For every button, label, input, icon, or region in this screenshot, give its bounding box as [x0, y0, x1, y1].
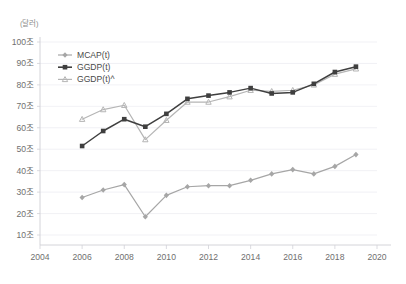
legend-label: GGDP(t): [77, 62, 111, 72]
x-axis-tick-label: 2012: [199, 252, 218, 262]
y-axis-tick-label: 60조: [16, 123, 34, 133]
legend-label: MCAP(t): [77, 50, 110, 60]
x-axis-tick-label: 2016: [283, 252, 302, 262]
y-axis-tick-label: 90조: [16, 58, 34, 68]
chart-legend: MCAP(t)GGDP(t)GGDP(t)^: [58, 50, 114, 84]
legend-item-ggdpt[interactable]: GGDP(t)^: [58, 74, 114, 84]
y-axis-tick-label: 50조: [16, 144, 34, 154]
x-axis-tick-label: 2018: [325, 252, 344, 262]
legend-label: GGDP(t)^: [77, 74, 114, 84]
x-axis-tick-label: 2010: [157, 252, 176, 262]
x-axis-tick-label: 2014: [241, 252, 260, 262]
line-chart-plot: 10조20조30조40조50조60조70조80조90조100조200420062…: [0, 0, 406, 284]
x-axis-tick-label: 2020: [367, 252, 386, 262]
y-axis-tick-label: 80조: [16, 80, 34, 90]
y-axis-tick-label: 30조: [16, 187, 34, 197]
legend-item-mcapt[interactable]: MCAP(t): [58, 50, 110, 60]
y-axis-tick-label: 40조: [16, 166, 34, 176]
series-ggdpt: [79, 66, 358, 142]
x-axis-tick-label: 2004: [30, 252, 49, 262]
y-axis-tick-label: 10조: [16, 230, 34, 240]
x-axis-tick-label: 2006: [73, 252, 92, 262]
y-axis-tick-label: 20조: [16, 209, 34, 219]
y-axis-tick-label: 100조: [12, 37, 34, 47]
x-axis-tick-label: 2008: [115, 252, 134, 262]
series-mcapt: [80, 152, 359, 220]
chart-container: (달러) 10조20조30조40조50조60조70조80조90조100조2004…: [0, 0, 406, 284]
y-axis-tick-label: 70조: [16, 101, 34, 111]
